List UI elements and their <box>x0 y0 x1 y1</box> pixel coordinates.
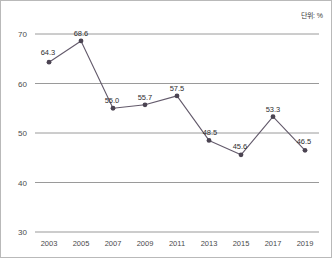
data-value-label: 57.5 <box>164 84 190 93</box>
x-axis-tick-label: 2003 <box>34 239 64 248</box>
data-point-marker <box>47 60 52 65</box>
data-point-marker <box>79 39 84 44</box>
x-axis-tick-label: 2007 <box>98 239 128 248</box>
data-point-marker <box>207 138 212 143</box>
x-axis-tick-label: 2017 <box>258 239 288 248</box>
data-point-marker <box>143 102 148 107</box>
gridlines-group <box>35 34 319 232</box>
data-point-marker <box>271 114 276 119</box>
y-axis-tick-label: 70 <box>5 30 27 39</box>
data-value-label: 64.3 <box>35 48 61 57</box>
data-point-marker <box>239 152 244 157</box>
line-chart-plot <box>1 1 332 258</box>
x-axis-tick-label: 2013 <box>194 239 224 248</box>
y-axis-tick-label: 40 <box>5 178 27 187</box>
data-value-label: 55.7 <box>132 93 158 102</box>
data-value-label: 53.3 <box>260 105 286 114</box>
data-value-label: 45.6 <box>227 142 253 151</box>
data-point-markers <box>47 39 308 158</box>
data-value-label: 55.0 <box>99 96 125 105</box>
data-value-label: 68.6 <box>68 29 94 38</box>
x-axis-tick-label: 2011 <box>162 239 192 248</box>
x-axis-tick-label: 2009 <box>130 239 160 248</box>
y-axis-tick-label: 30 <box>5 228 27 237</box>
data-value-label: 48.5 <box>197 128 223 137</box>
y-axis-tick-label: 60 <box>5 79 27 88</box>
y-axis-tick-label: 50 <box>5 129 27 138</box>
data-point-marker <box>303 148 308 153</box>
data-value-label: 46.5 <box>291 137 317 146</box>
x-axis-tick-label: 2005 <box>66 239 96 248</box>
x-axis-tick-label: 2019 <box>290 239 320 248</box>
chart-container: 단위: % 3040506070 20032005200720092011201… <box>0 0 332 258</box>
x-axis-tick-label: 2015 <box>226 239 256 248</box>
data-point-marker <box>111 106 116 111</box>
data-point-marker <box>175 93 180 98</box>
